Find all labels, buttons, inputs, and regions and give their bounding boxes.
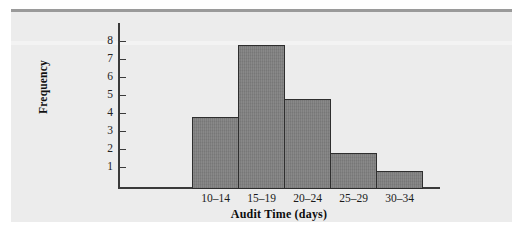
x-axis-title: Audit Time (days) [118, 207, 440, 222]
plot-area: 8 7 6 5 4 3 2 [11, 9, 512, 222]
bar-20-24 [284, 99, 331, 189]
bar-15-19 [238, 45, 285, 189]
bar-group [11, 9, 512, 222]
x-tick-label-15-19: 15–19 [238, 192, 285, 204]
bar-25-29 [330, 153, 377, 189]
x-tick-label-10-14: 10–14 [192, 192, 239, 204]
bar-30-34 [376, 171, 423, 189]
x-tick-label-30-34: 30–34 [376, 192, 423, 204]
bar-10-14 [192, 117, 239, 189]
histogram-screenshot: 8 7 6 5 4 3 2 [0, 0, 523, 232]
x-tick-label-25-29: 25–29 [330, 192, 377, 204]
x-tick-label-20-24: 20–24 [284, 192, 331, 204]
figure-panel: 8 7 6 5 4 3 2 [11, 9, 512, 222]
